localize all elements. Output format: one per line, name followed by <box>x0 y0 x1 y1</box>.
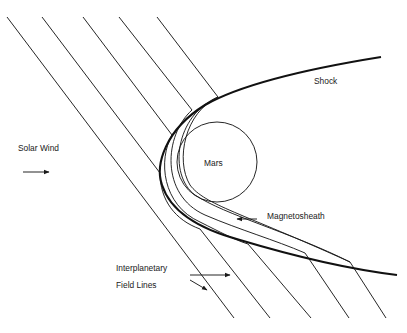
field-lines-draped <box>160 97 350 262</box>
mars-label: Mars <box>204 158 223 168</box>
field-line-5-upstream <box>157 17 218 97</box>
field-lines-downstream <box>200 229 386 318</box>
field-lines-label-line1: Interplanetary <box>116 263 168 273</box>
magnetosheath-label: Magnetosheath <box>267 211 325 221</box>
field-line-2-downstream <box>200 229 270 318</box>
mars-solar-wind-diagram: Shock Solar Wind Mars Magnetosheath Inte… <box>0 0 407 333</box>
field-lines-diagonal-arrow-icon <box>190 280 207 290</box>
field-lines-label-line2: Field Lines <box>116 280 157 290</box>
draped-line-6 <box>183 97 350 262</box>
field-line-3-upstream <box>83 17 172 135</box>
solar-wind-label: Solar Wind <box>18 143 59 153</box>
field-line-4-upstream <box>119 17 192 110</box>
shock-label: Shock <box>314 76 338 86</box>
field-line-3-downstream <box>248 244 311 318</box>
